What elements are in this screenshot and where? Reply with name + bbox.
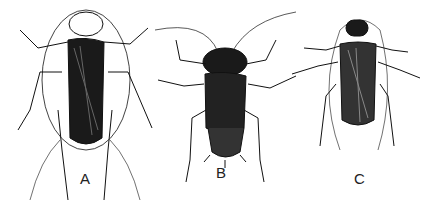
specimen-label-c: C bbox=[354, 170, 365, 187]
cockroach-b-drawing bbox=[155, 12, 296, 182]
specimen-label-a: A bbox=[80, 170, 90, 187]
specimen-label-b: B bbox=[216, 164, 226, 181]
cockroach-c-drawing bbox=[292, 20, 420, 150]
